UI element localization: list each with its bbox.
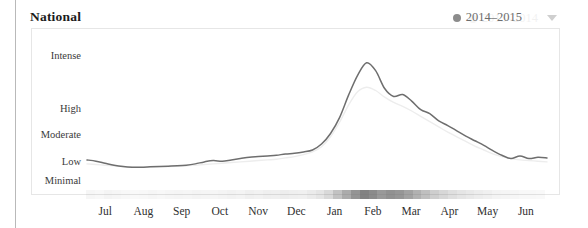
- legend-dot-icon: [453, 14, 461, 22]
- x-axis-tick-aug: Aug: [124, 201, 162, 221]
- x-axis-tick-apr: Apr: [430, 201, 468, 221]
- heatmap-cell[interactable]: [121, 190, 130, 199]
- page-title: National: [30, 9, 81, 25]
- x-axis-tick-feb: Feb: [354, 201, 392, 221]
- heatmap-cell[interactable]: [271, 190, 280, 199]
- heatmap-cell[interactable]: [245, 190, 254, 199]
- heatmap-cell[interactable]: [148, 190, 157, 199]
- heatmap-cell[interactable]: [289, 190, 298, 199]
- heatmap-cell[interactable]: [369, 190, 378, 199]
- heatmap-cell[interactable]: [218, 190, 227, 199]
- heatmap-cell[interactable]: [413, 190, 422, 199]
- x-axis-tick-mar: Mar: [392, 201, 430, 221]
- heatmap-cell[interactable]: [316, 190, 325, 199]
- heatmap-cell[interactable]: [377, 190, 386, 199]
- heatmap-cell[interactable]: [201, 190, 210, 199]
- heatmap-cell[interactable]: [324, 190, 333, 199]
- heatmap-cell[interactable]: [333, 190, 342, 199]
- x-axis-tick-sep: Sep: [163, 201, 201, 221]
- heatmap-cell[interactable]: [236, 190, 245, 199]
- heatmap-cell[interactable]: [104, 190, 113, 199]
- heatmap-cell[interactable]: [421, 190, 430, 199]
- heatmap-cell[interactable]: [519, 190, 528, 199]
- chart-header: National 2013–2014 2014–2015: [30, 6, 560, 30]
- heatmap-cell[interactable]: [430, 190, 439, 199]
- heatmap-cell[interactable]: [510, 190, 519, 199]
- heatmap-cell[interactable]: [298, 190, 307, 199]
- x-axis-tick-jun: Jun: [507, 201, 545, 221]
- page-left-rule: [15, 0, 16, 228]
- heatmap-cell[interactable]: [174, 190, 183, 199]
- heatmap-cell[interactable]: [227, 190, 236, 199]
- chart-panel: IntenseHighModerateLowMinimal: [31, 28, 560, 195]
- y-axis-tick-low: Low: [32, 155, 81, 166]
- y-axis-tick-moderate: Moderate: [32, 129, 81, 140]
- legend-primary[interactable]: 2014–2015: [453, 10, 522, 25]
- x-axis-tick-nov: Nov: [239, 201, 277, 221]
- heatmap-cell[interactable]: [492, 190, 501, 199]
- heatmap-cell[interactable]: [183, 190, 192, 199]
- heatmap-cell[interactable]: [86, 190, 95, 199]
- heatmap-cell[interactable]: [448, 190, 457, 199]
- heatmap-cell[interactable]: [536, 190, 545, 199]
- heatmap-cell[interactable]: [439, 190, 448, 199]
- heatmap-cell[interactable]: [474, 190, 483, 199]
- heatmap-cell[interactable]: [254, 190, 263, 199]
- heatmap-cell[interactable]: [307, 190, 316, 199]
- heatmap-cell[interactable]: [342, 190, 351, 199]
- x-axis-tick-may: May: [469, 201, 507, 221]
- heatmap-cell[interactable]: [112, 190, 121, 199]
- heatmap-cell[interactable]: [404, 190, 413, 199]
- y-axis-tick-minimal: Minimal: [32, 175, 81, 186]
- heatmap-cell[interactable]: [501, 190, 510, 199]
- heatmap-cell[interactable]: [192, 190, 201, 199]
- x-axis-tick-jan: Jan: [316, 201, 354, 221]
- x-axis-tick-oct: Oct: [201, 201, 239, 221]
- heatmap-cell[interactable]: [210, 190, 219, 199]
- heatmap-cell[interactable]: [95, 190, 104, 199]
- heatmap-cell[interactable]: [386, 190, 395, 199]
- heatmap-cell[interactable]: [165, 190, 174, 199]
- weekly-activity-heatmap[interactable]: [86, 190, 545, 199]
- chevron-down-icon[interactable]: [547, 15, 557, 21]
- heatmap-cell[interactable]: [466, 190, 475, 199]
- heatmap-cell[interactable]: [483, 190, 492, 199]
- heatmap-cell[interactable]: [395, 190, 404, 199]
- heatmap-cell[interactable]: [351, 190, 360, 199]
- heatmap-cell[interactable]: [527, 190, 536, 199]
- heatmap-cell[interactable]: [139, 190, 148, 199]
- heatmap-cell[interactable]: [157, 190, 166, 199]
- y-axis-tick-high: High: [32, 102, 81, 113]
- x-axis-tick-dec: Dec: [277, 201, 315, 221]
- heatmap-cell[interactable]: [263, 190, 272, 199]
- y-axis-tick-intense: Intense: [32, 49, 81, 60]
- flu-activity-widget: National 2013–2014 2014–2015 IntenseHigh…: [0, 0, 588, 228]
- heatmap-cell[interactable]: [457, 190, 466, 199]
- legend-label-season: 2014–2015: [466, 10, 522, 25]
- heatmap-cell[interactable]: [360, 190, 369, 199]
- y-axis-labels: IntenseHighModerateLowMinimal: [32, 29, 561, 196]
- heatmap-cell[interactable]: [130, 190, 139, 199]
- x-axis-labels: JulAugSepOctNovDecJanFebMarAprMayJun: [86, 201, 545, 221]
- heatmap-cell[interactable]: [280, 190, 289, 199]
- x-axis-tick-jul: Jul: [86, 201, 124, 221]
